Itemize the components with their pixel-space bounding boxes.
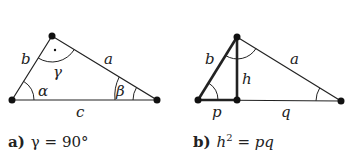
right-angle-dot bbox=[54, 49, 56, 51]
label-b-side-a: a bbox=[290, 50, 299, 68]
label-angle-beta: β bbox=[115, 82, 125, 100]
caption-b: b)h2 = pq bbox=[193, 132, 274, 151]
caption-a-formula: γ = 90° bbox=[31, 133, 89, 151]
triangle-diagrams: b a c α β γ a)γ = 90° b a h p q b)h2 = p… bbox=[0, 0, 352, 164]
angle-alpha-arc-b bbox=[209, 83, 219, 100]
label-angle-alpha: α bbox=[38, 82, 48, 100]
angle-beta-arc-2 bbox=[133, 87, 137, 100]
vertex-b-left bbox=[195, 97, 202, 104]
vertex-b-foot bbox=[234, 97, 241, 104]
label-segment-p: p bbox=[212, 103, 222, 121]
caption-b-letter: b) bbox=[193, 133, 211, 151]
angle-gamma-arc bbox=[38, 50, 74, 62]
caption-b-h: h bbox=[217, 133, 227, 151]
vertex-b bbox=[154, 97, 161, 104]
angle-alpha-arc bbox=[24, 81, 34, 100]
vertex-b-right bbox=[338, 98, 345, 105]
side-a-line bbox=[237, 37, 341, 101]
vertex-c bbox=[49, 33, 56, 40]
diagram-a bbox=[12, 36, 157, 100]
label-side-c: c bbox=[76, 103, 85, 121]
caption-a-letter: a) bbox=[8, 133, 25, 151]
vertex-b-top bbox=[234, 34, 241, 41]
label-height: h bbox=[242, 70, 252, 88]
vertex-a bbox=[9, 97, 16, 104]
angle-beta-arc-b bbox=[316, 88, 320, 101]
label-segment-q: q bbox=[281, 103, 291, 121]
label-angle-gamma: γ bbox=[53, 63, 62, 81]
label-side-b: b bbox=[21, 50, 31, 68]
caption-b-rest: = pq bbox=[233, 133, 274, 151]
label-side-a: a bbox=[104, 50, 113, 68]
side-b-line bbox=[198, 37, 237, 100]
label-b-side-b: b bbox=[205, 50, 215, 68]
caption-a: a)γ = 90° bbox=[8, 133, 88, 151]
diagram-b bbox=[198, 37, 341, 101]
